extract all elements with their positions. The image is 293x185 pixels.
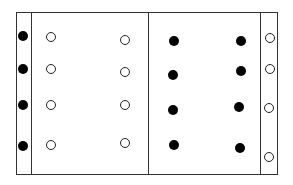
divider-line-1 — [31, 12, 32, 175]
filled-circle — [18, 64, 28, 74]
filled-circle — [235, 143, 245, 153]
filled-circle — [18, 31, 28, 41]
hollow-circle — [120, 67, 130, 77]
filled-circle — [236, 36, 246, 46]
filled-circle — [168, 105, 178, 115]
hollow-circle — [120, 100, 130, 110]
divider-line-3 — [260, 12, 261, 175]
divider-line-2 — [148, 12, 149, 175]
hollow-circle — [120, 138, 130, 148]
filled-circle — [234, 102, 244, 112]
hollow-circle — [264, 152, 274, 162]
hollow-circle — [265, 33, 275, 43]
hollow-circle — [264, 103, 274, 113]
filled-circle — [18, 141, 28, 151]
filled-circle — [169, 140, 179, 150]
filled-circle — [18, 100, 28, 110]
hollow-circle — [46, 140, 56, 150]
hollow-circle — [120, 35, 130, 45]
hollow-circle — [46, 100, 56, 110]
hollow-circle — [46, 64, 56, 74]
hollow-circle — [265, 64, 275, 74]
hollow-circle — [46, 32, 56, 42]
filled-circle — [169, 36, 179, 46]
filled-circle — [168, 70, 178, 80]
filled-circle — [236, 66, 246, 76]
